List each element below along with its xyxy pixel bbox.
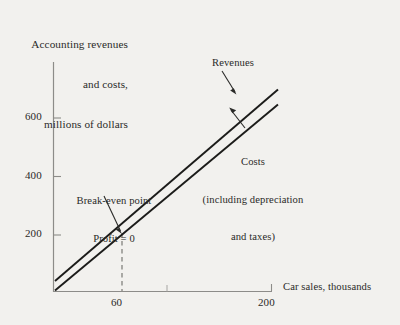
y-tick-label-200: 200: [25, 227, 42, 240]
costs-annotation-line2: (including depreciation: [193, 194, 313, 207]
breakeven-annotation-line2: Profit = 0: [62, 233, 166, 246]
x-axis-title: Car sales, thousands: [283, 281, 371, 294]
revenues-annotation: Revenues: [212, 57, 254, 70]
revenues-leader-arrow: [222, 71, 236, 94]
y-tick-label-600: 600: [25, 110, 42, 123]
costs-annotation-line3: and taxes): [193, 231, 313, 244]
breakeven-chart-figure: Accounting revenues and costs, millions …: [0, 0, 400, 325]
breakeven-annotation-line1: Break-even point: [62, 195, 166, 208]
x-tick-label-200: 200: [258, 296, 275, 309]
costs-annotation: Costs (including depreciation and taxes): [193, 131, 313, 269]
y-tick-label-400: 400: [25, 169, 42, 182]
costs-annotation-line1: Costs: [193, 156, 313, 169]
y-axis-title-line2: and costs,: [8, 78, 128, 91]
y-axis-title: Accounting revenues and costs, millions …: [8, 12, 128, 157]
y-axis-title-line1: Accounting revenues: [8, 38, 128, 51]
x-tick-label-60: 60: [111, 296, 122, 309]
breakeven-annotation: Break-even point Profit = 0: [62, 170, 166, 270]
